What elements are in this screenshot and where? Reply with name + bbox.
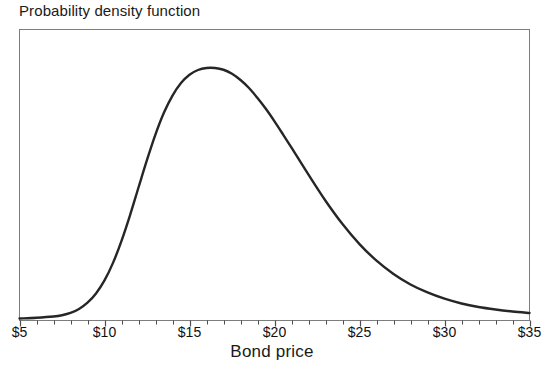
x-tick-label: $15 [178, 324, 201, 341]
chart-figure: Probability density function $5$10$15$20… [0, 0, 544, 368]
x-tick-label: $5 [12, 324, 28, 341]
plot-frame [20, 30, 530, 321]
x-tick-label: $25 [348, 324, 371, 341]
x-tick-label: $20 [263, 324, 286, 341]
plot-area [0, 0, 544, 368]
x-tick-label: $10 [93, 324, 116, 341]
x-axis-label: Bond price [0, 342, 544, 362]
x-tick-label: $30 [433, 324, 456, 341]
x-tick-label: $35 [518, 324, 541, 341]
